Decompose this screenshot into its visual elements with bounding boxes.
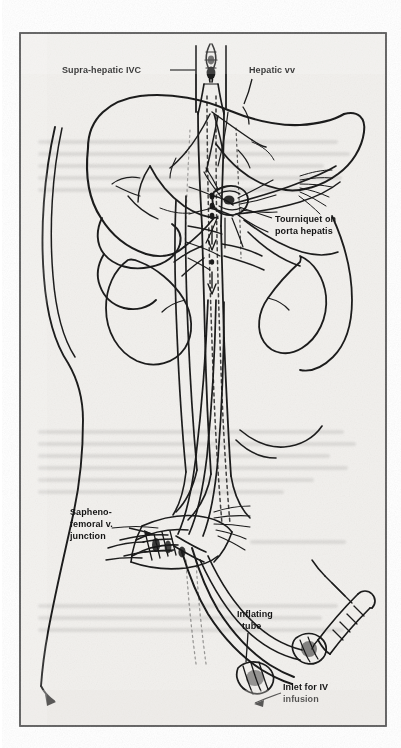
label-sapheno-line3: junction (69, 531, 106, 541)
label-sapheno-line2: femoral v. (70, 519, 113, 529)
figure-root: Supra-hepatic IVC Hepatic vv Tourniquet … (0, 0, 401, 748)
medical-illustration: Supra-hepatic IVC Hepatic vv Tourniquet … (0, 0, 401, 748)
label-inflating-tube-line2: tube (242, 621, 261, 631)
label-tourniquet-line2: porta hepatis (275, 226, 333, 236)
label-tourniquet-line1: Tourniquet on (275, 214, 336, 224)
label-inflating-tube-line1: Inflating (237, 609, 273, 619)
label-sapheno-line1: Sapheno- (70, 507, 112, 517)
